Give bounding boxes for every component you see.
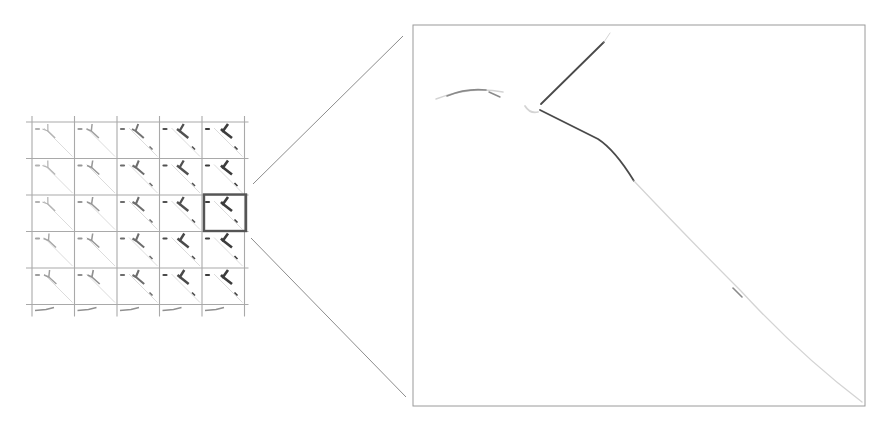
grid-tile [36, 270, 73, 303]
grid-tile [206, 161, 243, 194]
tile-diagonal [214, 274, 243, 303]
grid-tile [206, 124, 243, 157]
tile-branch [180, 241, 189, 248]
tile-branch [48, 204, 55, 211]
tile-edge [120, 308, 139, 311]
tile-y-edge [133, 161, 139, 168]
tile-diagonal [129, 201, 158, 230]
tile-diagonal [172, 201, 201, 230]
tile-y-edge [43, 197, 48, 204]
figure-canvas [0, 0, 892, 426]
tile-y-edge [44, 270, 50, 277]
grid-tile [121, 234, 158, 267]
tile-y-edge [88, 270, 94, 277]
grid-tile [164, 270, 201, 303]
grid-tile [36, 234, 73, 267]
tile-branch [48, 168, 55, 175]
grid-tile [36, 124, 73, 157]
tile-branch [223, 204, 232, 211]
tile-diagonal [214, 238, 243, 267]
tile-diagonal [214, 201, 243, 230]
tile-diagonal [129, 165, 158, 194]
tile-y-edge [87, 234, 93, 241]
tile-edge [78, 308, 97, 311]
grid-tile [79, 197, 116, 230]
tile-diagonal [44, 201, 73, 230]
tile-y-edge [221, 270, 228, 277]
magnified-tile-panel [413, 25, 865, 406]
tile-diagonal [87, 201, 116, 230]
tile-y-edge [87, 197, 93, 204]
tile-edge [205, 308, 224, 311]
grid-tile [164, 161, 201, 194]
tile-y-edge [132, 124, 138, 131]
tile-y-edge [87, 161, 93, 168]
grid-tile [164, 197, 201, 230]
tile-diagonal [87, 128, 116, 157]
tile-y-edge [177, 197, 184, 204]
tile-y-edge [178, 234, 185, 241]
tile-diagonal [87, 165, 116, 194]
grid-tile [205, 308, 224, 311]
tile-y-edge [87, 124, 93, 131]
grid-tile [164, 234, 201, 267]
tile-diagonal [87, 238, 116, 267]
tile-diagonal [172, 128, 201, 157]
tile-branch [223, 277, 232, 284]
tile-diagonal [44, 128, 73, 157]
tile-y-edge [44, 234, 50, 241]
grid-tile [120, 308, 139, 311]
tile-diagonal [172, 274, 201, 303]
grid-tile [35, 308, 54, 311]
tile-diagonal [129, 274, 158, 303]
tile-y-edge [133, 197, 139, 204]
tile-y-edge [221, 234, 228, 241]
tile-diagonal [44, 238, 73, 267]
tile-diagonal [44, 165, 73, 194]
tile-grid [35, 124, 243, 311]
grid-tile [36, 161, 73, 194]
grid-tile [206, 234, 243, 267]
tile-diagonal [172, 238, 201, 267]
tile-branch [136, 131, 144, 138]
grid-tile [79, 234, 116, 267]
tile-diagonal [129, 128, 158, 157]
tile-diagonal [87, 274, 116, 303]
tile-branch [136, 168, 144, 175]
grid-tile [121, 161, 158, 194]
grid-tile [121, 270, 158, 303]
tile-edge [35, 308, 54, 311]
grid-tile [164, 124, 201, 157]
tile-y-edge [177, 161, 184, 168]
tile-y-edge [43, 161, 48, 168]
grid-tile [206, 197, 243, 230]
grid-tile [78, 308, 97, 311]
tile-edge [163, 308, 182, 311]
tile-diagonal [214, 165, 243, 194]
grid-tile [206, 270, 243, 303]
tile-branch [223, 131, 232, 138]
magnified-tile-frame [413, 25, 865, 406]
tile-branch [136, 241, 144, 248]
tile-y-edge [178, 270, 185, 277]
tile-diagonal [44, 274, 73, 303]
tile-y-edge [221, 197, 228, 204]
tile-y-edge [221, 124, 228, 131]
tile-branch [223, 168, 232, 175]
zoom-connector-top [253, 36, 403, 184]
grid-tile [121, 197, 158, 230]
grid-tile [79, 161, 116, 194]
tile-branch [136, 277, 144, 284]
tile-y-edge [221, 161, 228, 168]
tile-branch [136, 204, 144, 211]
tile-branch [48, 131, 55, 138]
tile-y-edge [133, 234, 139, 241]
tile-y-edge [177, 124, 184, 131]
tile-diagonal [172, 165, 201, 194]
tile-y-edge [43, 124, 48, 131]
tile-branch [180, 277, 189, 284]
tile-diagonal [129, 238, 158, 267]
grid-tile [121, 124, 158, 157]
grid-tile [163, 308, 182, 311]
tile-diagonal [214, 128, 243, 157]
